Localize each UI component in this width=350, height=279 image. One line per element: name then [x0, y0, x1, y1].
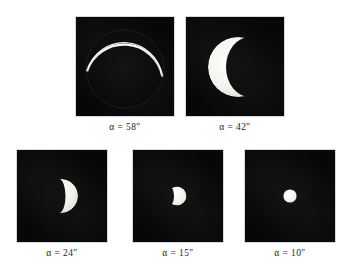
panel-image-15	[133, 150, 223, 242]
panel-caption-15: α = 15″	[162, 248, 193, 258]
venus-disk-10-icon	[245, 150, 335, 242]
venus-disk-42-icon	[186, 17, 284, 116]
venus-disk-24-icon	[17, 150, 107, 242]
panel-image-24	[17, 150, 107, 242]
panel-image-10	[245, 150, 335, 242]
panel-caption-10: α = 10″	[274, 248, 305, 258]
venus-disk-58-icon	[76, 17, 174, 116]
phase-panel-58: α = 58″	[76, 17, 174, 132]
venus-phases-figure: α = 58″	[0, 0, 350, 279]
venus-disk-15-icon	[133, 150, 223, 242]
panel-caption-42: α = 42″	[219, 122, 250, 132]
phase-panel-42: α = 42″	[186, 17, 284, 132]
phase-panel-24: α = 24″	[17, 150, 107, 258]
panel-caption-58: α = 58″	[109, 122, 140, 132]
panel-image-58	[76, 17, 174, 116]
panel-caption-24: α = 24″	[46, 248, 77, 258]
phase-panel-10: α = 10″	[245, 150, 335, 258]
phase-panel-15: α = 15″	[133, 150, 223, 258]
panel-image-42	[186, 17, 284, 116]
